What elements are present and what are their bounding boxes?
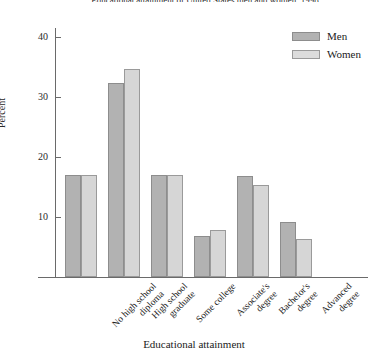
y-tick-label-10: 10 bbox=[26, 212, 48, 222]
bar-women-3 bbox=[210, 230, 226, 277]
legend: Men Women bbox=[292, 30, 361, 66]
x-category-label-3: Associate'sdegree bbox=[234, 281, 279, 326]
x-category-line-1: Some college bbox=[194, 281, 237, 324]
y-tick-label-20: 20 bbox=[26, 152, 48, 162]
x-category-label-2: Some college bbox=[194, 281, 238, 325]
bar-men-3 bbox=[194, 236, 210, 277]
legend-swatch-women-icon bbox=[292, 50, 320, 59]
x-axis-line bbox=[38, 277, 368, 278]
y-tick-label-40: 40 bbox=[26, 32, 48, 42]
bar-women-1 bbox=[124, 69, 140, 277]
legend-label-women: Women bbox=[327, 48, 361, 60]
bar-men-2 bbox=[151, 175, 167, 277]
x-category-label-5: Advanceddegree bbox=[319, 281, 362, 324]
bar-men-4 bbox=[237, 176, 253, 277]
x-category-label-4: Bachelor'sdegree bbox=[277, 281, 321, 325]
bar-men-0 bbox=[65, 175, 81, 277]
legend-item-men: Men bbox=[292, 30, 361, 42]
bar-women-2 bbox=[167, 175, 183, 277]
legend-label-men: Men bbox=[327, 30, 347, 42]
bar-chart: Educational attainment of United States … bbox=[0, 0, 388, 358]
bar-men-5 bbox=[280, 222, 296, 277]
y-tick-label-30: 30 bbox=[26, 92, 48, 102]
y-axis-label: Percent bbox=[0, 98, 7, 128]
bar-men-1 bbox=[108, 83, 124, 277]
legend-swatch-men-icon bbox=[292, 32, 320, 41]
chart-title: Educational attainment of United States … bbox=[40, 0, 370, 2]
bar-women-5 bbox=[296, 239, 312, 277]
legend-item-women: Women bbox=[292, 48, 361, 60]
x-axis-label: Educational attainment bbox=[0, 338, 388, 350]
bar-women-0 bbox=[81, 175, 97, 277]
bar-women-4 bbox=[253, 185, 269, 277]
